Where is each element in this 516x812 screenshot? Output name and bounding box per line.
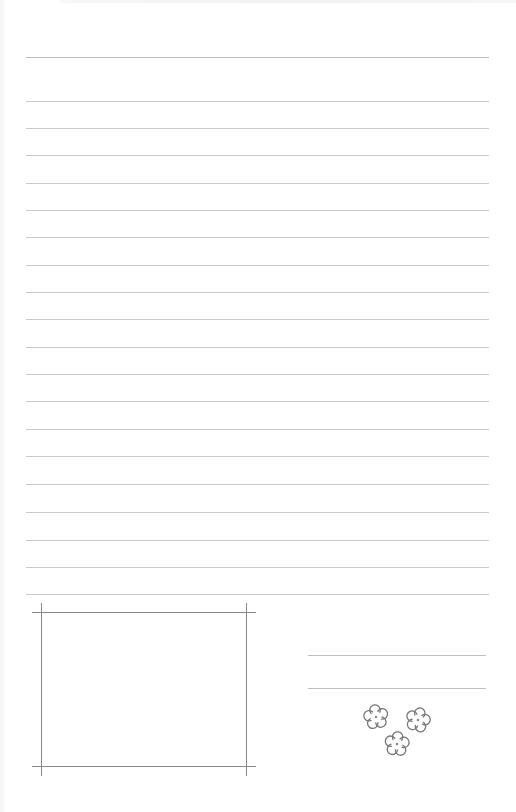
ruled-line [26,456,489,457]
frame-bottom-line [32,766,256,767]
signature-line [308,655,486,656]
ruled-line [26,540,489,541]
ruled-line [26,155,489,156]
ruled-line [26,429,489,430]
ruled-line [26,567,489,568]
ruled-line [26,484,489,485]
flower-icon [404,705,433,733]
ruled-line [26,512,489,513]
paper-edge [0,0,4,812]
ruled-line [26,319,489,320]
ruled-line [26,265,489,266]
ruled-line [26,401,489,402]
flower-icon [363,703,390,729]
ruled-line [26,594,489,595]
signature-line [308,688,486,689]
ruled-line [26,101,489,102]
ruled-line [26,128,489,129]
top-bleed-artifact [60,0,516,3]
ruled-line [26,374,489,375]
ruled-line [26,57,489,58]
frame-top-line [32,612,256,613]
ruled-line [26,210,489,211]
ruled-line [26,292,489,293]
flower-icon [384,731,410,756]
frame-left-line [41,603,42,776]
ruled-line [26,237,489,238]
frame-right-line [246,603,247,776]
flower-cluster-icon [355,696,435,766]
ruled-line [26,183,489,184]
ruled-line [26,347,489,348]
